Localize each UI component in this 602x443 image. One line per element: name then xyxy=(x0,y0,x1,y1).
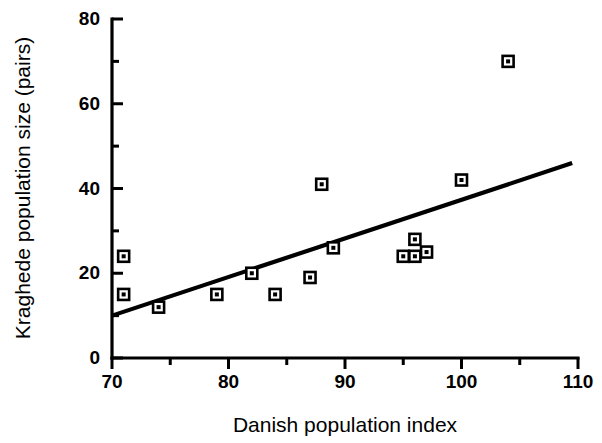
data-point-marker-inner xyxy=(460,178,464,182)
data-point-marker-inner xyxy=(331,246,335,250)
x-axis-title: Danish population index xyxy=(233,413,458,436)
data-point-marker-inner xyxy=(320,182,324,186)
y-tick-label: 20 xyxy=(79,262,100,283)
axes-group xyxy=(112,19,578,358)
data-point-marker-inner xyxy=(425,250,429,254)
data-point-marker-inner xyxy=(157,305,161,309)
x-tick-label: 90 xyxy=(334,371,355,392)
y-tick-label: 0 xyxy=(89,347,100,368)
x-axis-ticks xyxy=(112,358,578,369)
data-point xyxy=(328,242,339,253)
data-point-marker-inner xyxy=(308,275,312,279)
data-point xyxy=(316,179,327,190)
x-tick-label: 100 xyxy=(446,371,478,392)
data-point xyxy=(456,175,467,186)
data-point-marker-inner xyxy=(250,271,254,275)
x-tick-label: 70 xyxy=(101,371,122,392)
y-axis-title: Kraghede population size (pairs) xyxy=(11,37,34,339)
scatter-plot-canvas: 020406080 708090100110 Danish population… xyxy=(0,0,602,443)
data-point xyxy=(270,289,281,300)
regression-line xyxy=(112,163,572,316)
data-point xyxy=(118,289,129,300)
data-point-marker-inner xyxy=(401,254,405,258)
data-point xyxy=(421,247,432,258)
y-tick-label: 40 xyxy=(79,178,100,199)
chart-figure: 020406080 708090100110 Danish population… xyxy=(0,0,602,443)
data-point xyxy=(305,272,316,283)
data-point-marker-inner xyxy=(413,237,417,241)
data-point xyxy=(153,302,164,313)
data-point-marker-inner xyxy=(215,292,219,296)
data-point-marker-inner xyxy=(122,254,126,258)
x-axis-tick-labels: 708090100110 xyxy=(101,371,593,392)
x-tick-label: 110 xyxy=(563,371,594,392)
y-axis-tick-labels: 020406080 xyxy=(79,8,100,368)
data-point xyxy=(409,234,420,245)
data-point xyxy=(503,56,514,67)
data-point-marker-inner xyxy=(273,292,277,296)
data-point xyxy=(118,251,129,262)
y-tick-label: 80 xyxy=(79,8,100,29)
data-point xyxy=(398,251,409,262)
data-point-marker-inner xyxy=(122,292,126,296)
y-axis-ticks xyxy=(112,19,123,358)
data-point xyxy=(246,268,257,279)
data-point xyxy=(211,289,222,300)
data-point-group xyxy=(118,56,513,313)
y-tick-label: 60 xyxy=(79,93,100,114)
data-point xyxy=(409,251,420,262)
data-point-marker-inner xyxy=(413,254,417,258)
data-point-marker-inner xyxy=(506,59,510,63)
x-tick-label: 80 xyxy=(218,371,239,392)
